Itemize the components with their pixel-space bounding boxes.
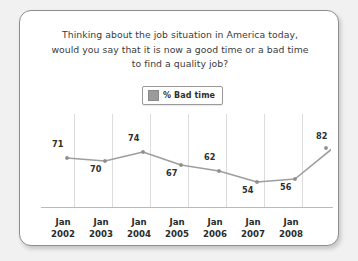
x-axis-label-2004-year: 2004 <box>118 229 160 241</box>
chart-title-line-2: would you say that it is now a good time… <box>30 43 330 58</box>
chart-legend[interactable]: % Bad time <box>142 86 223 105</box>
legend-series-label: % Bad time <box>163 91 215 100</box>
x-axis-label-2006-month: Jan <box>194 217 236 229</box>
data-label-point-3: 74 <box>128 133 140 143</box>
series-line-bad-time <box>67 148 331 182</box>
data-label-point-4: 67 <box>166 168 178 178</box>
chart-title-line-3: to find a quality job? <box>30 57 330 72</box>
plot-area <box>41 114 331 207</box>
chart-plot-svg <box>41 114 331 207</box>
chart-title-line-1: Thinking about the job situation in Amer… <box>30 28 330 43</box>
data-label-point-5: 62 <box>204 152 216 162</box>
x-axis-label-2004-month: Jan <box>118 217 160 229</box>
x-axis-label-2008-year: 2008 <box>270 229 312 241</box>
x-axis-label-2007-month: Jan <box>232 217 274 229</box>
data-label-point-6: 54 <box>242 185 254 195</box>
x-axis-label-2005: Jan 2005 <box>156 217 198 240</box>
x-axis-label-2008: Jan 2008 <box>270 217 312 240</box>
data-label-point-7: 56 <box>280 182 292 192</box>
x-axis-label-2006-year: 2006 <box>194 229 236 241</box>
x-axis-label-2002-year: 2002 <box>42 229 84 241</box>
x-axis-label-2003-year: 2003 <box>80 229 122 241</box>
x-axis-label-2003-month: Jan <box>80 217 122 229</box>
x-axis-label-2004: Jan 2004 <box>118 217 160 240</box>
x-axis-label-2002-month: Jan <box>42 217 84 229</box>
chart-card: Thinking about the job situation in Amer… <box>19 10 339 246</box>
chart-title: Thinking about the job situation in Amer… <box>30 28 330 72</box>
series-markers <box>65 146 327 183</box>
x-axis-label-2007: Jan 2007 <box>232 217 274 240</box>
x-axis-label-2005-month: Jan <box>156 217 198 229</box>
x-axis-label-2002: Jan 2002 <box>42 217 84 240</box>
legend-swatch-icon <box>148 90 159 101</box>
data-label-point-2: 70 <box>90 164 102 174</box>
x-axis-label-2006: Jan 2006 <box>194 217 236 240</box>
x-axis-label-2003: Jan 2003 <box>80 217 122 240</box>
x-axis-label-2008-month: Jan <box>270 217 312 229</box>
x-axis-line <box>41 207 333 208</box>
x-axis-label-2005-year: 2005 <box>156 229 198 241</box>
x-axis-label-2007-year: 2007 <box>232 229 274 241</box>
data-label-point-1: 71 <box>52 139 64 149</box>
chart-page: Thinking about the job situation in Amer… <box>0 0 358 261</box>
data-label-point-8: 82 <box>316 131 328 141</box>
